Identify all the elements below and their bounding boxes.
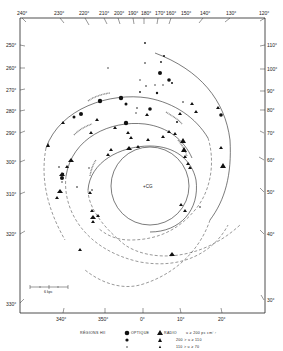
top-label-230: 230°: [54, 10, 64, 16]
top-label-150: 150°: [181, 10, 191, 16]
top-label-170: 170°: [155, 10, 165, 16]
left-label-300: 300°: [6, 159, 16, 165]
radio-hii-regions: [46, 102, 226, 256]
top-label-190: 190°: [128, 10, 138, 16]
spiral-arms: [46, 53, 230, 232]
scale-bar-label: 6 kpc: [44, 290, 53, 294]
map-frame: [20, 18, 265, 313]
top-label-140: 140°: [200, 10, 210, 16]
top-label-210: 210°: [99, 10, 109, 16]
right-label-50: 50°: [267, 189, 275, 195]
legend-row3-text: 110 > u ≥ 70: [176, 345, 199, 349]
top-label-130: 130°: [226, 10, 236, 16]
right-label-110: 110°: [267, 42, 277, 48]
legend-optical-label: OPTIQUE: [131, 331, 150, 335]
legend-row1-text: u ≥ 200 pc cm⁻²: [186, 331, 217, 335]
legend-title: RÉGIONS HII: [80, 330, 105, 335]
left-label-260: 260°: [6, 65, 16, 71]
radio-large-icon: [157, 330, 163, 335]
top-label-160: 160°: [166, 10, 176, 16]
right-label-30: 30°: [267, 297, 275, 303]
left-ticks: [20, 45, 25, 303]
left-label-280: 280°: [6, 108, 16, 114]
optical-large-icon: [125, 331, 130, 336]
top-label-200: 200°: [114, 10, 124, 16]
left-label-290: 290°: [6, 130, 16, 136]
legend: RÉGIONS HII OPTIQUE RADIO u ≥ 200 pc cm⁻…: [80, 330, 217, 349]
right-label-70: 70°: [267, 130, 275, 136]
right-label-100: 100°: [267, 66, 277, 72]
left-label-310: 310°: [6, 191, 16, 197]
right-ticks: [259, 45, 265, 300]
bottom-label-0: 0°: [140, 316, 145, 322]
bottom-ticks: [63, 308, 222, 313]
bottom-label-10: 10°: [177, 316, 185, 322]
bottom-label-340: 340°: [56, 316, 66, 322]
right-label-80: 80°: [267, 107, 275, 113]
top-label-220: 220°: [79, 10, 89, 16]
top-ticks: [22, 18, 265, 25]
left-label-250: 250°: [6, 42, 16, 48]
left-label-270: 270°: [6, 87, 16, 93]
bottom-label-350: 350°: [98, 316, 108, 322]
legend-row2-text: 200 > u ≥ 110: [176, 338, 202, 342]
right-label-60: 60°: [267, 157, 275, 163]
left-label-320: 320°: [6, 231, 16, 237]
radio-medium-icon: [158, 338, 162, 342]
scale-bar: [30, 285, 68, 289]
optical-medium-icon: [125, 338, 128, 341]
radio-small-icon: [159, 346, 161, 349]
right-label-40: 40°: [267, 231, 275, 237]
top-label-180: 180°: [141, 10, 151, 16]
top-label-240: 240°: [17, 10, 27, 16]
right-label-90: 90°: [267, 88, 275, 94]
spiral-arms-dashed: [44, 138, 240, 287]
hatched-regions: [74, 93, 187, 176]
legend-radio-label: RADIO: [164, 331, 177, 335]
galactic-center-label: +CG: [143, 184, 153, 189]
left-label-330: 330°: [6, 301, 16, 307]
spiral-map: 240° 230° 220° 210° 200° 190° 180° 170° …: [0, 0, 283, 351]
optical-small-icon: [126, 346, 127, 347]
top-label-120: 120°: [259, 10, 269, 16]
bottom-label-20: 20°: [218, 316, 226, 322]
